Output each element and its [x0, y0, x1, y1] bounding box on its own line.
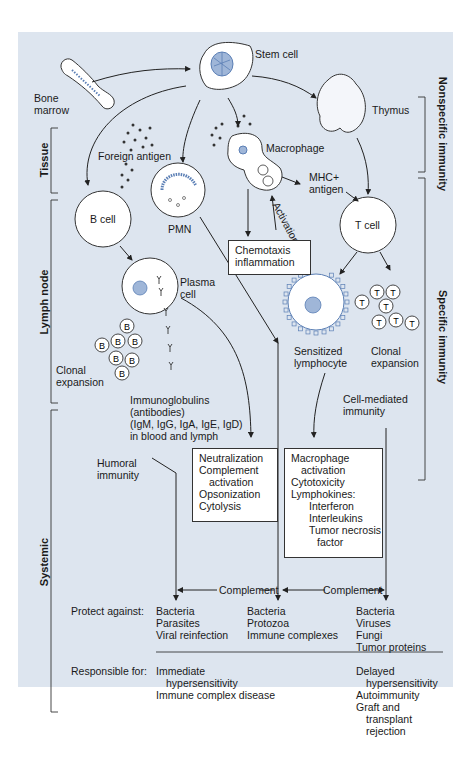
list-item: transplant [356, 713, 438, 725]
complement-right-label: Complement [323, 584, 383, 596]
foreign-antigen-label: Foreign antigen [98, 150, 171, 162]
bone-marrow-label: Bonemarrow [34, 92, 69, 116]
protect-against-cell-mediated-list: BacteriaVirusesFungiTumor proteins [356, 605, 426, 653]
receptor-bump [330, 273, 334, 277]
list-item: Cytolysis [199, 500, 271, 512]
clonal-expansion-b-label: Clonalexpansion [56, 364, 104, 388]
list-item: Bacteria [156, 605, 228, 617]
cell-functions-box: MacrophageactivationCytotoxicityLymphoki… [284, 448, 383, 558]
protect-against-label: Protect against: [71, 605, 144, 617]
list-item: Interferon [291, 500, 376, 512]
clonal-expansion-t-label: Clonalexpansion [371, 345, 419, 369]
pmn-label: PMN [168, 223, 191, 235]
list-item: Opsonization [199, 488, 271, 500]
list-item: Bacteria [247, 605, 338, 617]
receptor-bump [306, 330, 310, 334]
receptor-bump [341, 285, 345, 289]
responsible-for-cell-mediated-list: DelayedhypersensitivityAutoimmunityGraft… [356, 665, 438, 737]
thymus-icon [317, 74, 365, 132]
list-item: Neutralization [199, 452, 271, 464]
specific-immunity-bracket-label: Specific immunity [437, 277, 449, 397]
clone-cell-letter: T [359, 298, 365, 308]
clone-cell-letter: B [132, 337, 138, 347]
list-item: Interleukins [291, 512, 376, 524]
list-item: factor [291, 536, 376, 548]
thymus-label: Thymus [372, 104, 409, 116]
stem-cell-label: Stem cell [255, 48, 298, 60]
list-item: Cytotoxicity [291, 476, 376, 488]
list-item: Complement [199, 464, 271, 476]
responsible-for-label: Responsible for: [71, 665, 147, 677]
list-item: rejection [356, 725, 438, 737]
list-item: Viral reinfection [156, 629, 228, 641]
receptor-bump [287, 285, 291, 289]
receptor-bump [344, 292, 348, 296]
nonspecific-immunity-bracket-label: Nonspecific immunity [437, 64, 449, 204]
pmn-cell-icon [151, 163, 205, 217]
list-item: Parasites [156, 617, 228, 629]
receptor-bump [314, 331, 318, 335]
receptor-bump [283, 300, 287, 304]
list-item: activation [291, 464, 376, 476]
clone-cell-letter: B [99, 341, 105, 351]
list-item: Immediate [156, 665, 275, 677]
list-item: Macrophage [291, 452, 376, 464]
clone-cell-letter: T [376, 318, 382, 328]
clone-cell-letter: B [129, 356, 135, 366]
receptor-bump [330, 327, 334, 331]
clone-cell-letter: T [383, 302, 389, 312]
list-item: Protozoa [247, 617, 338, 629]
tissue-bracket-label: Tissue [38, 130, 50, 190]
list-item: Tumor necrosis [291, 524, 376, 536]
clone-cell-letter: T [409, 319, 415, 329]
list-item: Fungi [356, 629, 426, 641]
clone-cell-letter: B [113, 354, 119, 364]
list-item: Lymphokines: [291, 488, 376, 500]
sensitized-lymphocyte-label: Sensitizedlymphocyte [294, 345, 347, 369]
receptor-bump [287, 316, 291, 320]
receptor-bump [336, 322, 340, 326]
list-item: Delayed [356, 665, 438, 677]
plasma-cell-icon [122, 258, 178, 314]
list-item: activation [199, 476, 271, 488]
lymph-node-bracket-label: Lymph node [38, 252, 50, 352]
chemotaxis-box: Chemotaxisinflammation [228, 240, 311, 275]
clone-cell-letter: B [124, 322, 130, 332]
cell-mediated-immunity-label: Cell-mediatedimmunity [343, 393, 408, 417]
humoral-immunity-label: Humoralimmunity [97, 457, 139, 481]
receptor-bump [299, 327, 303, 331]
list-item: hypersensitivity [156, 677, 275, 689]
complement-left-label: Complement [219, 584, 279, 596]
list-item: Immune complex disease [156, 689, 275, 701]
list-item: Immune complexes [247, 629, 338, 641]
immunity-diagram: BBBBBBB TTTTTTT [0, 0, 475, 778]
protect-against-humoral-list: BacteriaParasitesViral reinfection [156, 605, 228, 641]
systemic-bracket-label: Systemic [38, 522, 50, 602]
receptor-bump [284, 308, 288, 312]
list-item: hypersensitivity [356, 677, 438, 689]
b-cell-label: B cell [90, 213, 116, 225]
receptor-bump [292, 322, 296, 326]
list-item: Viruses [356, 617, 426, 629]
receptor-bump [322, 330, 326, 334]
list-item: Autoimmunity [356, 689, 438, 701]
responsible-for-humoral-list: ImmediatehypersensitivityImmune complex … [156, 665, 275, 701]
clone-cell-letter: T [374, 288, 380, 298]
receptor-bump [292, 278, 296, 282]
receptor-bump [341, 316, 345, 320]
clone-cell-letter: T [390, 288, 396, 298]
immunoglobulins-label: Immunoglobulins(antibodies)(IgM, IgG, Ig… [130, 394, 243, 442]
t-clone-cells: TTTTTTT [355, 285, 419, 330]
list-item: Tumor proteins [356, 641, 426, 653]
t-cell-label: T cell [355, 219, 380, 231]
clone-cell-letter: B [115, 337, 121, 347]
receptor-bump [284, 292, 288, 296]
humoral-functions-box: NeutralizationComplementactivationOpsoni… [192, 448, 278, 522]
sensitized-lymphocyte-icon [283, 273, 349, 335]
stem-cell-icon [200, 42, 253, 89]
list-item: Bacteria [356, 605, 426, 617]
mhc-antigen-label: MHC+antigen [309, 171, 343, 195]
clone-cell-letter: B [119, 369, 125, 379]
receptor-bump [345, 300, 349, 304]
clone-cell-letter: T [393, 316, 399, 326]
